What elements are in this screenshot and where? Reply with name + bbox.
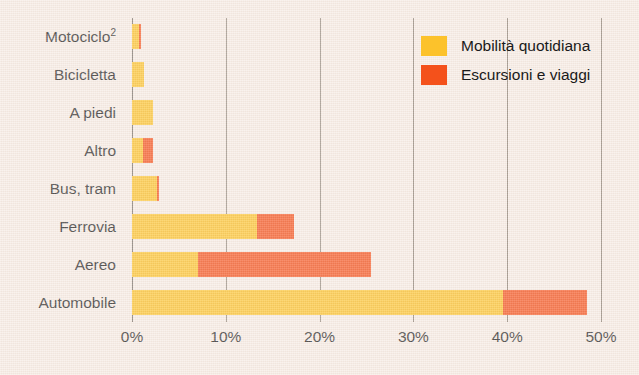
category-label: Automobile [38,290,116,315]
category-label: Bus, tram [50,176,116,201]
bar-row [132,290,587,315]
bar-segment-primary [132,290,503,315]
bar-row [132,100,153,125]
bar-segment-secondary [143,138,152,163]
bar-row [132,24,141,49]
bar-segment-secondary [503,290,587,315]
bar-segment-secondary [157,176,159,201]
bar-segment-primary [132,62,144,87]
category-labels: Motociclo2BiciclettaA piediAltroBus, tra… [0,18,126,322]
category-label: Bicicletta [54,62,116,87]
gridline-50 [601,18,602,322]
legend-swatch [421,36,447,56]
footnote-marker: 2 [110,27,116,38]
bar-segment-primary [132,214,257,239]
bar-row [132,252,371,277]
x-tick-label: 40% [492,328,523,346]
bar-segment-secondary [257,214,295,239]
bar-segment-secondary [198,252,372,277]
bar-row [132,138,153,163]
category-label: Ferrovia [59,214,116,239]
legend-label: Mobilità quotidiana [461,37,590,55]
bar-segment-secondary [139,24,142,49]
x-tick-label: 30% [398,328,429,346]
bar-row [132,176,159,201]
x-tick-label: 10% [210,328,241,346]
category-label: Altro [84,138,116,163]
bar-segment-primary [132,176,157,201]
bar-segment-primary [132,100,153,125]
bar-segment-primary [132,138,143,163]
category-label: A piedi [69,100,116,125]
x-tick-label: 20% [304,328,335,346]
bar-row [132,62,144,87]
bar-row [132,214,294,239]
category-label: Aereo [75,252,116,277]
legend-item: Mobilità quotidiana [421,36,590,56]
x-tick-label: 50% [585,328,616,346]
legend-label: Escursioni e viaggi [461,66,590,84]
legend-swatch [421,65,447,85]
x-tick-label: 0% [121,328,143,346]
category-label: Motociclo2 [45,24,116,49]
legend-item: Escursioni e viaggi [421,65,590,85]
bar-segment-primary [132,252,198,277]
legend: Mobilità quotidianaEscursioni e viaggi [421,36,590,94]
bar-chart: Motociclo2BiciclettaA piediAltroBus, tra… [0,0,639,375]
x-axis: 0%10%20%30%40%50% [132,322,601,356]
